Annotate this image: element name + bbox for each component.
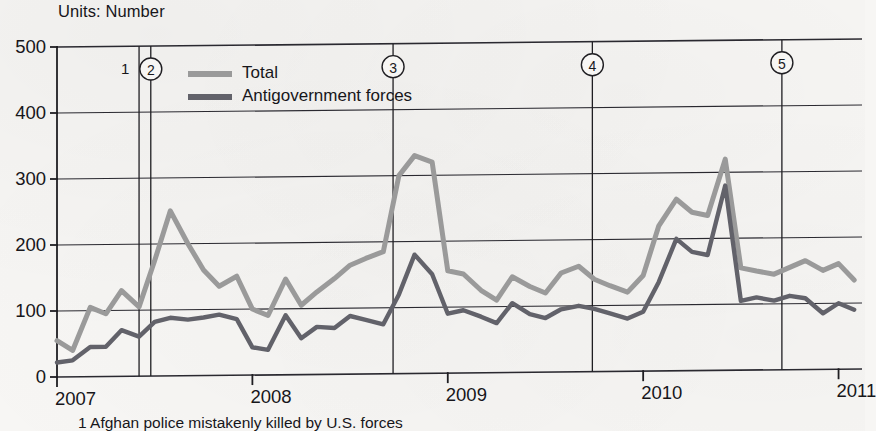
gridline-400 (57, 105, 862, 113)
legend-item-total-label: Total (242, 63, 278, 83)
gridline-0 (57, 369, 862, 377)
ytick-label-300: 300 (0, 168, 46, 190)
ytick-label-400: 400 (0, 102, 46, 124)
annotation-markers-group: 2345 (140, 52, 793, 80)
legend-item-antigovernment-label: Antigovernment forces (242, 86, 412, 106)
gridline-200 (57, 237, 862, 245)
xtick-label-2007: 2007 (55, 388, 96, 410)
annotation-marker-2-number: 2 (147, 62, 155, 78)
gridline-300 (57, 171, 862, 179)
ytick-label-200: 200 (0, 234, 46, 256)
xtick-label-2010: 2010 (641, 382, 682, 404)
ytick-label-500: 500 (0, 36, 46, 58)
annotation-marker-1-label: 1 (121, 60, 129, 77)
ytick-label-100: 100 (0, 300, 46, 322)
gridlines-group (57, 39, 862, 377)
xtick-label-2009: 2009 (446, 384, 487, 406)
xtick-label-2008: 2008 (250, 386, 291, 408)
annotation-marker-3-number: 3 (389, 60, 397, 76)
xtick-label-2011: 2011 (837, 380, 876, 402)
ytick-label-0: 0 (0, 366, 46, 388)
annotation-marker-5-number: 5 (778, 56, 786, 72)
data-series-group (57, 156, 854, 363)
gridline-500 (57, 39, 862, 47)
annotation-marker-4-number: 4 (588, 58, 596, 74)
footnote-text: 1 Afghan police mistakenly killed by U.S… (78, 414, 403, 431)
legend-swatches-group (188, 74, 232, 97)
